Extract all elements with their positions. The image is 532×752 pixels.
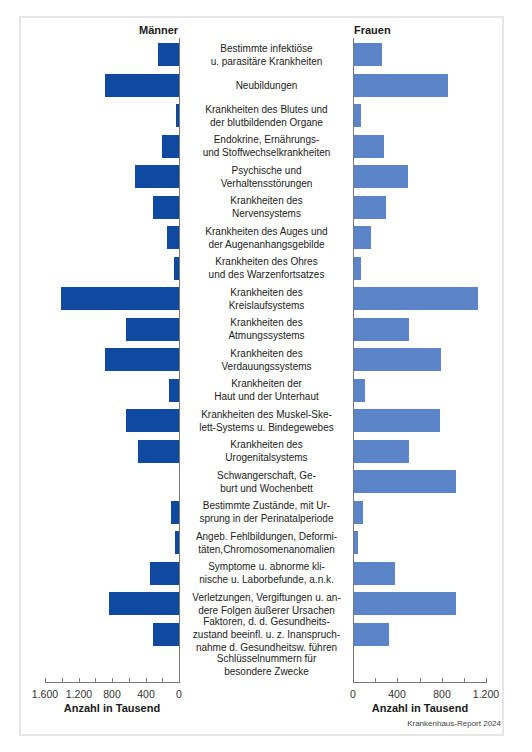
category-label-line: Verhaltensstörungen	[180, 177, 353, 190]
category-label: Krankheiten desAtmungssystems	[180, 316, 353, 342]
category-label: Angeb. Fehlbildungen, Deformi-täten,Chro…	[180, 530, 353, 556]
bar-maenner	[153, 623, 179, 646]
category-label: Krankheiten desKreislaufsystems	[180, 286, 353, 312]
category-label-line: sprung in der Perinatalperiode	[180, 512, 353, 525]
right-tick	[397, 678, 398, 682]
bar-maenner	[105, 348, 179, 371]
bar-maenner	[126, 318, 179, 341]
category-label-line: nische u. Laborbefunde, a.n.k.	[180, 573, 353, 586]
category-label-line: Krankheiten des Muskel-Ske-	[180, 408, 353, 421]
series-label-frauen: Frauen	[354, 24, 391, 36]
left-tick-label: 1.600	[32, 688, 58, 700]
category-label-line: zustand beeinfl. u. z. Inanspruch-	[180, 628, 353, 641]
source-note: Krankenhaus-Report 2024	[407, 719, 501, 728]
bar-frauen	[354, 440, 409, 463]
category-label: Endokrine, Ernährungs-und Stoffwechselkr…	[180, 133, 353, 159]
category-label: Psychische undVerhaltensstörungen	[180, 164, 353, 190]
right-tick-label: 1.200	[473, 688, 499, 700]
category-label-line: Krankheiten des Auges und	[180, 225, 353, 238]
bar-frauen	[354, 43, 382, 66]
right-tick-label: 0	[350, 688, 356, 700]
category-label: Bestimmte Zustände, mit Ur-sprung in der…	[180, 499, 353, 525]
category-label-line: Atmungssystems	[180, 329, 353, 342]
category-label: Faktoren, d. d. Gesundheits-zustand beei…	[180, 615, 353, 654]
bar-frauen	[354, 501, 363, 524]
category-label-line: der blutbildenden Organe	[180, 116, 353, 129]
left-tick	[179, 678, 180, 682]
bar-maenner	[150, 562, 179, 585]
bar-frauen	[354, 287, 478, 310]
category-label-line: u. parasitäre Krankheiten	[180, 55, 353, 68]
category-label-line: lett-Systems u. Bindegewebes	[180, 421, 353, 434]
category-label-line: Verdauungssystems	[180, 360, 353, 373]
bar-frauen	[354, 623, 389, 646]
category-label: Krankheiten des Blutes undder blutbilden…	[180, 103, 353, 129]
left-tick-label: 800	[103, 688, 121, 700]
bar-frauen	[354, 135, 384, 158]
left-tick	[95, 678, 96, 682]
left-tick	[62, 678, 63, 682]
left-tick	[129, 678, 130, 682]
bar-frauen	[354, 226, 371, 249]
category-label: Krankheiten derHaut und der Unterhaut	[180, 377, 353, 403]
bar-maenner	[169, 379, 179, 402]
category-label: Schlüsselnummern fürbesondere Zwecke	[180, 652, 353, 678]
bar-maenner	[176, 104, 179, 127]
category-label-line: Nervensystems	[180, 207, 353, 220]
right-tick-label: 800	[433, 688, 451, 700]
bar-maenner	[61, 287, 179, 310]
bar-frauen	[354, 165, 408, 188]
bar-frauen	[354, 379, 365, 402]
bar-maenner	[158, 43, 179, 66]
category-label: Krankheiten des Ohresund des Warzenforts…	[180, 255, 353, 281]
category-label: Krankheiten desUrogenitalsystems	[180, 438, 353, 464]
category-label: Krankheiten desNervensystems	[180, 194, 353, 220]
category-label-line: Krankheiten des Ohres	[180, 255, 353, 268]
bar-frauen	[354, 196, 386, 219]
bar-frauen	[354, 104, 361, 127]
category-label-line: Urogenitalsystems	[180, 451, 353, 464]
category-label-line: Endokrine, Ernährungs-	[180, 133, 353, 146]
category-label-line: Angeb. Fehlbildungen, Deformi-	[180, 530, 353, 543]
category-label-line: Neubildungen	[180, 79, 353, 92]
category-label: Krankheiten des Muskel-Ske-lett-Systems …	[180, 408, 353, 434]
category-label-line: Kreislaufsystems	[180, 299, 353, 312]
left-tick	[162, 678, 163, 682]
category-label-line: Symptome u. abnorme kli-	[180, 560, 353, 573]
right-x-axis	[353, 682, 487, 683]
category-label-line: und des Warzenfortsatzes	[180, 268, 353, 281]
category-label-line: besondere Zwecke	[180, 665, 353, 678]
right-tick	[353, 678, 354, 682]
category-label-line: Faktoren, d. d. Gesundheits-	[180, 615, 353, 628]
bar-frauen	[354, 409, 440, 432]
right-tick	[420, 678, 421, 682]
category-label-line: Schwangerschaft, Ge-	[180, 469, 353, 482]
bar-maenner	[135, 165, 179, 188]
category-label-line: Krankheiten des	[180, 194, 353, 207]
right-tick	[464, 678, 465, 682]
bar-maenner	[105, 74, 179, 97]
category-label-line: Krankheiten des	[180, 347, 353, 360]
left-tick	[112, 678, 113, 682]
left-axis-title: Anzahl in Tausend	[64, 702, 160, 714]
category-label-line: Bestimmte Zustände, mit Ur-	[180, 499, 353, 512]
right-tick	[442, 678, 443, 682]
bar-frauen	[354, 562, 395, 585]
category-label: Neubildungen	[180, 79, 353, 92]
category-label-line: Krankheiten des	[180, 286, 353, 299]
category-label: Symptome u. abnorme kli-nische u. Laborb…	[180, 560, 353, 586]
category-label-line: Verletzungen, Vergiftungen u. an-	[180, 591, 353, 604]
category-label: Krankheiten des Auges undder Augenanhang…	[180, 225, 353, 251]
category-label-line: Schlüsselnummern für	[180, 652, 353, 665]
right-tick	[486, 678, 487, 682]
category-label: Bestimmte infektiöseu. parasitäre Krankh…	[180, 42, 353, 68]
category-label-line: Krankheiten des Blutes und	[180, 103, 353, 116]
series-label-maenner: Männer	[139, 24, 178, 36]
bar-frauen	[354, 470, 456, 493]
bar-maenner	[138, 440, 179, 463]
bar-frauen	[354, 592, 456, 615]
left-tick	[45, 678, 46, 682]
category-label: Verletzungen, Vergiftungen u. an-dere Fo…	[180, 591, 353, 617]
bar-frauen	[354, 531, 358, 554]
category-label-line: täten,Chromosomenanomalien	[180, 543, 353, 556]
